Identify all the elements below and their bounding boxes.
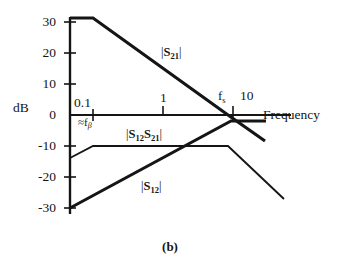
- x-axis-title: Frequency: [263, 108, 320, 122]
- curve-label-s12s21: |S12S21|: [126, 128, 162, 141]
- xtick-label-1: 1: [160, 91, 167, 105]
- f-beta-subscript: β: [88, 121, 92, 130]
- ytick-label-neg10: -10: [22, 139, 56, 153]
- figure-container: 30 20 10 0 -10 -20 -30 dB Frequency 0.1 …: [0, 0, 340, 266]
- plot-canvas: [0, 0, 340, 266]
- curve-s12: [70, 121, 266, 208]
- s12s21-base2: S: [144, 127, 151, 141]
- ytick-label-10: 10: [22, 77, 56, 91]
- xtick-label-0p1: 0.1: [74, 96, 91, 110]
- s12-subscript: 12: [150, 185, 159, 195]
- curve-label-s12: |S12|: [141, 180, 161, 193]
- s21-bar-close: |: [179, 45, 182, 59]
- s21-subscript: 21: [170, 51, 179, 61]
- f-beta-marker-label: ≈fβ: [78, 117, 92, 128]
- y-axis-title: dB: [13, 101, 29, 115]
- s12s21-subscript2: 21: [151, 133, 160, 143]
- s12s21-subscript1: 12: [135, 133, 144, 143]
- ytick-label-20: 20: [22, 46, 56, 60]
- panel-caption: (b): [0, 240, 340, 253]
- s12-bar-close: |: [159, 179, 162, 193]
- ytick-label-neg30: -30: [22, 201, 56, 215]
- f-s-marker-label: fs: [218, 89, 226, 102]
- s12s21-bar-close: |: [159, 127, 162, 141]
- x-tick-marks: [93, 106, 233, 121]
- ytick-label-30: 30: [22, 15, 56, 29]
- ytick-label-neg20: -20: [22, 170, 56, 184]
- xtick-label-10: 10: [240, 89, 254, 103]
- f-beta-prefix: ≈f: [78, 116, 88, 128]
- f-s-subscript: s: [222, 95, 225, 105]
- curve-label-s21: |S21|: [161, 46, 181, 59]
